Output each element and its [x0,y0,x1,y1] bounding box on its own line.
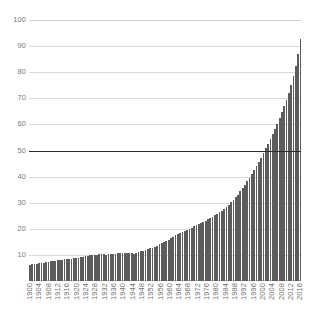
y-tick-label-50: 50 [0,147,26,155]
plot-area [29,20,301,281]
y-tick-label-40: 40 [0,173,26,181]
y-axis: 100908070605040302010 [0,20,26,281]
y-tick-label-70: 70 [0,95,26,103]
x-tick-slot: 2016 [299,283,301,316]
y-tick-label-60: 60 [0,121,26,129]
x-tick-label-2016: 2016 [296,283,304,300]
y-tick-label-30: 30 [0,199,26,207]
reference-line-50 [29,151,301,152]
y-tick-label-80: 80 [0,68,26,76]
y-tick-label-100: 100 [0,16,26,24]
y-tick-label-10: 10 [0,251,26,259]
y-tick-label-90: 90 [0,42,26,50]
bar-chart: 100908070605040302010 190019041908191219… [0,0,312,316]
bar [300,39,302,281]
x-axis: 1900190419081912191619201924192819321936… [29,283,301,316]
y-tick-label-20: 20 [0,225,26,233]
